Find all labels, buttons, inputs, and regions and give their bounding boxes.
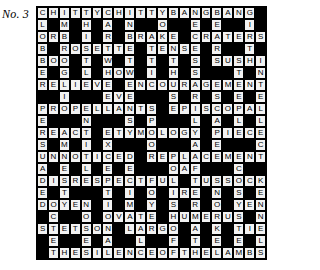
crossword-letter-cell[interactable]: O	[157, 79, 168, 91]
crossword-letter-cell[interactable]: A	[59, 127, 70, 139]
crossword-letter-cell[interactable]: E	[233, 151, 244, 163]
crossword-letter-cell[interactable]: R	[201, 31, 212, 43]
crossword-letter-cell[interactable]: I	[168, 187, 179, 199]
crossword-letter-cell[interactable]: I	[92, 247, 103, 259]
crossword-letter-cell[interactable]: I	[81, 139, 92, 151]
crossword-letter-cell[interactable]: O	[81, 211, 92, 223]
crossword-letter-cell[interactable]: S	[81, 43, 92, 55]
crossword-letter-cell[interactable]: L	[233, 115, 244, 127]
crossword-letter-cell[interactable]: E	[70, 199, 81, 211]
crossword-letter-cell[interactable]: S	[255, 247, 266, 259]
crossword-letter-cell[interactable]: S	[211, 175, 222, 187]
crossword-letter-cell[interactable]: O	[48, 55, 59, 67]
crossword-letter-cell[interactable]: A	[244, 103, 255, 115]
crossword-letter-cell[interactable]: O	[157, 19, 168, 31]
crossword-letter-cell[interactable]: N	[102, 223, 113, 235]
crossword-letter-cell[interactable]: E	[190, 19, 201, 31]
crossword-letter-cell[interactable]: S	[211, 55, 222, 67]
crossword-letter-cell[interactable]: A	[190, 151, 201, 163]
crossword-letter-cell[interactable]: A	[222, 247, 233, 259]
crossword-letter-cell[interactable]: T	[81, 151, 92, 163]
crossword-letter-cell[interactable]: S	[233, 55, 244, 67]
crossword-letter-cell[interactable]: W	[124, 67, 135, 79]
crossword-letter-cell[interactable]: E	[255, 127, 266, 139]
crossword-letter-cell[interactable]: R	[211, 211, 222, 223]
crossword-letter-cell[interactable]: I	[81, 31, 92, 43]
crossword-letter-cell[interactable]: E	[157, 151, 168, 163]
crossword-letter-cell[interactable]: E	[37, 187, 48, 199]
crossword-letter-cell[interactable]: B	[124, 31, 135, 43]
crossword-letter-cell[interactable]: T	[135, 103, 146, 115]
crossword-letter-cell[interactable]: I	[48, 175, 59, 187]
crossword-letter-cell[interactable]: O	[102, 211, 113, 223]
crossword-letter-cell[interactable]: E	[244, 199, 255, 211]
crossword-letter-cell[interactable]: N	[255, 67, 266, 79]
crossword-letter-cell[interactable]: P	[211, 127, 222, 139]
crossword-letter-cell[interactable]: S	[37, 223, 48, 235]
crossword-letter-cell[interactable]: B	[168, 7, 179, 19]
crossword-letter-cell[interactable]: L	[92, 103, 103, 115]
crossword-letter-cell[interactable]: D	[37, 175, 48, 187]
crossword-letter-cell[interactable]: S	[255, 31, 266, 43]
crossword-letter-cell[interactable]: I	[244, 19, 255, 31]
crossword-letter-cell[interactable]: C	[190, 31, 201, 43]
crossword-letter-cell[interactable]: E	[48, 127, 59, 139]
crossword-letter-cell[interactable]: C	[244, 127, 255, 139]
crossword-letter-cell[interactable]: E	[37, 67, 48, 79]
crossword-letter-cell[interactable]: H	[168, 211, 179, 223]
crossword-letter-cell[interactable]: R	[37, 79, 48, 91]
crossword-letter-cell[interactable]: L	[102, 247, 113, 259]
crossword-letter-cell[interactable]: G	[157, 223, 168, 235]
crossword-letter-cell[interactable]: C	[233, 163, 244, 175]
crossword-letter-cell[interactable]: N	[190, 7, 201, 19]
crossword-letter-cell[interactable]: A	[102, 19, 113, 31]
crossword-letter-cell[interactable]: T	[135, 211, 146, 223]
crossword-letter-cell[interactable]: N	[81, 115, 92, 127]
crossword-letter-cell[interactable]: E	[233, 79, 244, 91]
crossword-letter-cell[interactable]: X	[102, 139, 113, 151]
crossword-letter-cell[interactable]: I	[59, 91, 70, 103]
crossword-letter-cell[interactable]: I	[124, 187, 135, 199]
crossword-letter-cell[interactable]: T	[48, 247, 59, 259]
crossword-letter-cell[interactable]: Y	[92, 7, 103, 19]
crossword-letter-cell[interactable]: E	[168, 103, 179, 115]
crossword-letter-cell[interactable]: G	[201, 79, 212, 91]
crossword-letter-cell[interactable]: T	[135, 7, 146, 19]
crossword-letter-cell[interactable]: A	[124, 211, 135, 223]
crossword-letter-cell[interactable]: E	[92, 43, 103, 55]
crossword-letter-cell[interactable]: L	[59, 79, 70, 91]
crossword-letter-cell[interactable]: L	[255, 115, 266, 127]
crossword-letter-cell[interactable]: T	[48, 223, 59, 235]
crossword-letter-cell[interactable]: N	[124, 19, 135, 31]
crossword-letter-cell[interactable]: U	[37, 151, 48, 163]
crossword-letter-cell[interactable]: U	[168, 79, 179, 91]
crossword-letter-cell[interactable]: H	[113, 7, 124, 19]
crossword-letter-cell[interactable]: L	[179, 151, 190, 163]
crossword-letter-cell[interactable]: L	[102, 103, 113, 115]
crossword-letter-cell[interactable]: N	[59, 151, 70, 163]
crossword-letter-cell[interactable]: D	[37, 199, 48, 211]
crossword-letter-cell[interactable]: D	[124, 151, 135, 163]
crossword-letter-cell[interactable]: S	[190, 67, 201, 79]
crossword-letter-cell[interactable]: S	[168, 199, 179, 211]
crossword-letter-cell[interactable]: M	[222, 79, 233, 91]
crossword-letter-cell[interactable]: O	[157, 247, 168, 259]
crossword-letter-cell[interactable]: R	[190, 199, 201, 211]
crossword-letter-cell[interactable]: E	[81, 103, 92, 115]
crossword-letter-cell[interactable]: B	[211, 7, 222, 19]
crossword-letter-cell[interactable]: E	[233, 127, 244, 139]
crossword-letter-cell[interactable]: S	[146, 103, 157, 115]
crossword-letter-cell[interactable]: E	[146, 247, 157, 259]
crossword-letter-cell[interactable]: A	[211, 115, 222, 127]
crossword-letter-cell[interactable]: P	[168, 151, 179, 163]
crossword-letter-cell[interactable]: C	[244, 175, 255, 187]
crossword-letter-cell[interactable]: E	[102, 127, 113, 139]
crossword-letter-cell[interactable]: L	[37, 19, 48, 31]
crossword-letter-cell[interactable]: A	[37, 163, 48, 175]
crossword-letter-cell[interactable]: E	[233, 91, 244, 103]
crossword-letter-cell[interactable]: S	[124, 115, 135, 127]
crossword-letter-cell[interactable]: R	[146, 223, 157, 235]
crossword-letter-cell[interactable]: L	[124, 223, 135, 235]
crossword-letter-cell[interactable]: E	[190, 43, 201, 55]
crossword-letter-cell[interactable]: M	[233, 247, 244, 259]
